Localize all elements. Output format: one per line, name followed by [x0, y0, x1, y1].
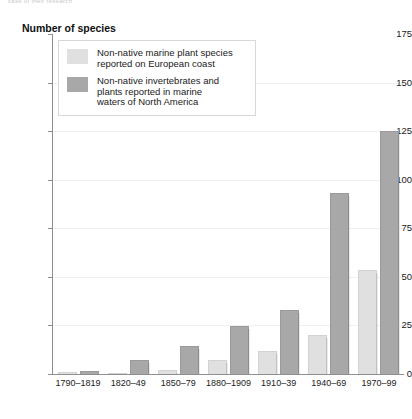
x-axis-labels: 1790–18191820–491850–791880–19091910–391… [53, 378, 404, 398]
bar [58, 372, 77, 374]
bar-group [254, 34, 304, 374]
x-axis-tick-label: 1880–1909 [203, 378, 253, 388]
x-axis-tick-label: 1820–49 [103, 378, 153, 388]
bar [130, 360, 149, 374]
x-axis-tick-label: 1910–39 [254, 378, 304, 388]
bar [380, 131, 399, 374]
bar [80, 371, 99, 374]
legend-label: Non-native marine plant species reported… [97, 48, 233, 69]
legend-label-line: reported on European coast [97, 59, 233, 70]
legend-item: Non-native marine plant species reported… [67, 48, 246, 69]
bar [258, 351, 277, 374]
x-axis-tick-label: 1940–69 [304, 378, 354, 388]
legend-label-line: Non-native marine plant species [97, 48, 233, 59]
bar [158, 370, 177, 374]
bar [280, 310, 299, 374]
chart-legend: Non-native marine plant species reported… [58, 40, 256, 116]
bar [108, 373, 127, 375]
bar-group [354, 34, 404, 374]
legend-label: Non-native invertebrates and plants repo… [97, 76, 219, 108]
legend-label-line: Non-native invertebrates and [97, 76, 219, 87]
bar [180, 346, 199, 374]
y-axis-tick [48, 374, 53, 375]
bar [208, 360, 227, 374]
legend-item: Non-native invertebrates and plants repo… [67, 76, 246, 108]
x-axis-line [52, 374, 404, 375]
legend-swatch-icon [67, 77, 88, 92]
x-axis-tick-label: 1790–1819 [53, 378, 103, 388]
bar [358, 270, 377, 374]
legend-label-line: waters of North America [97, 97, 219, 108]
bar [330, 193, 349, 374]
bar [308, 335, 327, 374]
bar [230, 326, 249, 374]
x-axis-tick-label: 1970–99 [354, 378, 404, 388]
legend-swatch-icon [67, 49, 88, 64]
bar-group [304, 34, 354, 374]
x-axis-tick-label: 1850–79 [153, 378, 203, 388]
